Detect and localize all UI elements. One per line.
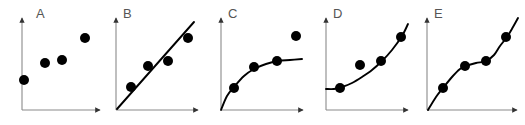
data-point-e-2 [460,61,470,71]
panel-d: D [326,6,408,110]
panel-e: E [427,6,518,110]
panel-label-b: B [123,6,132,21]
data-point-e-4 [501,32,511,42]
data-point-d-1 [335,83,345,93]
panel-label-c: C [228,6,237,21]
data-point-e-1 [438,83,448,93]
data-point-d-4 [396,32,406,42]
data-point-b-2 [143,61,153,71]
panel-b: B [116,6,198,110]
data-point-a-4 [80,33,90,43]
data-point-b-1 [126,82,136,92]
panel-c: C [221,6,303,110]
fit-curve-d [326,24,408,89]
data-point-a-3 [57,55,67,65]
data-point-d-2 [355,60,365,70]
panels-group: ABCDE [19,6,518,110]
data-point-d-3 [376,56,386,66]
panel-label-a: A [36,6,45,21]
scatter-plot-figure: ABCDE [0,0,525,125]
data-point-c-1 [229,83,239,93]
fit-curve-b [117,22,194,109]
panel-label-d: D [333,6,342,21]
data-point-a-2 [40,58,50,68]
fit-curve-e [428,18,518,110]
data-point-c-3 [272,56,282,66]
figure-canvas: ABCDE [0,0,525,125]
data-point-b-4 [183,33,193,43]
panel-a: A [19,6,100,110]
data-point-b-3 [163,56,173,66]
data-point-c-4 [291,31,301,41]
data-point-e-3 [481,56,491,66]
panel-label-e: E [434,6,443,21]
data-point-c-2 [249,62,259,72]
data-point-a-1 [19,75,29,85]
